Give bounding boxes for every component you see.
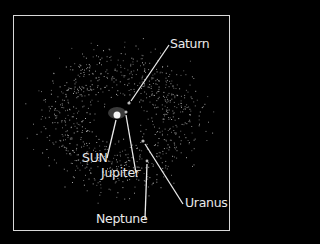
uranus-label: Uranus — [185, 197, 228, 210]
uranus-body — [141, 139, 144, 142]
jupiter-body — [125, 111, 128, 114]
uranus-leader-line — [145, 144, 183, 204]
neptune-body — [146, 160, 149, 163]
saturn-label: Saturn — [170, 38, 209, 51]
sun-leader-line — [107, 120, 116, 158]
saturn-leader-line — [131, 45, 169, 101]
neptune-label: Neptune — [96, 213, 147, 226]
saturn-body — [127, 101, 130, 104]
sun-label: SUN — [82, 152, 108, 165]
sun-body — [114, 112, 121, 119]
jupiter-label: Jupiter — [101, 167, 140, 180]
